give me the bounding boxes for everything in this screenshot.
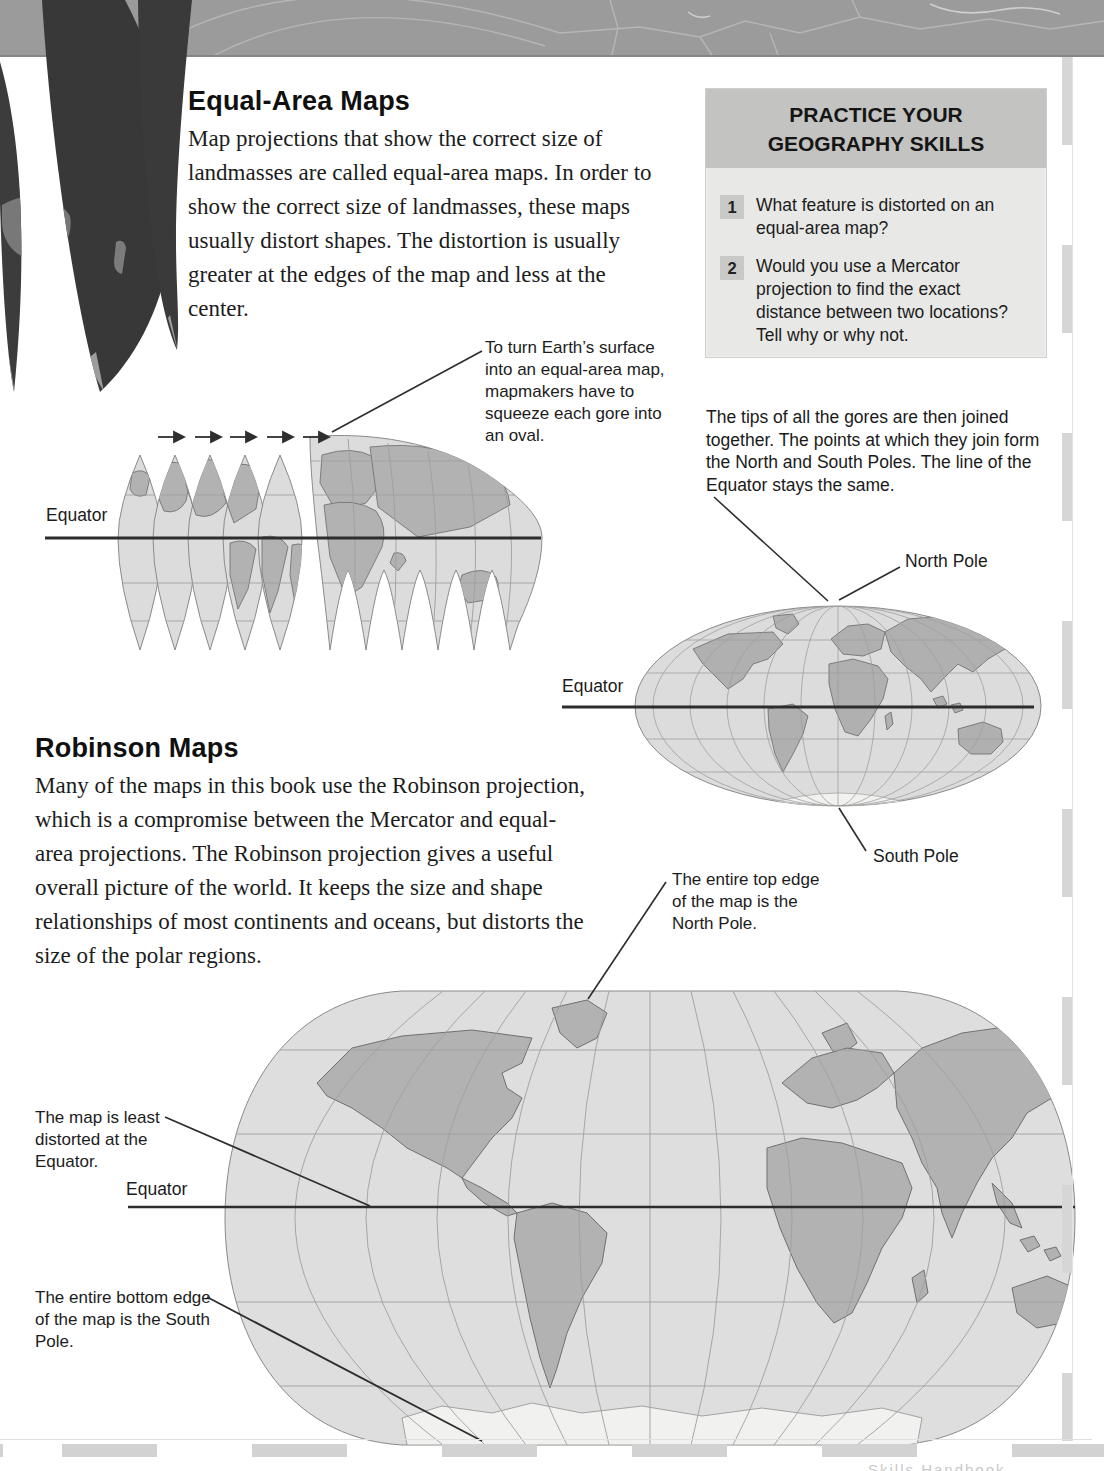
south-pole-leader-line xyxy=(839,808,866,851)
equator-label-oval: Equator xyxy=(562,676,623,697)
practice-box-header: PRACTICE YOUR GEOGRAPHY SKILLS xyxy=(706,89,1046,168)
page-edge-hairline-right xyxy=(1072,57,1073,1441)
equator-label-robinson: Equator xyxy=(126,1179,187,1200)
equal-area-paragraph: Map projections that show the correct si… xyxy=(188,122,660,326)
top-edge-leader-line xyxy=(588,882,666,999)
north-pole-leader-line xyxy=(839,567,900,600)
north-pole-label: North Pole xyxy=(905,551,988,572)
question-text: Would you use a Mercator projection to f… xyxy=(756,255,1028,347)
page-edge-hairline-bottom xyxy=(0,1439,1092,1440)
top-edge-annotation: The entire top edge of the map is the No… xyxy=(672,869,827,935)
practice-title-line1: PRACTICE YOUR xyxy=(706,100,1046,129)
question-number-badge: 1 xyxy=(720,195,744,219)
equator-label-gores: Equator xyxy=(46,505,107,526)
right-arrow-icon xyxy=(267,432,293,442)
right-arrow-icon xyxy=(158,432,184,442)
page-edge-dashes-bottom xyxy=(0,1444,1104,1457)
question-number-badge: 2 xyxy=(720,256,744,280)
squeeze-leader-line xyxy=(332,351,482,432)
right-arrow-icon xyxy=(230,432,256,442)
robinson-paragraph: Many of the maps in this book use the Ro… xyxy=(35,769,591,973)
footer-partial-text: Skills Handbook xyxy=(868,1461,1104,1471)
robinson-heading: Robinson Maps xyxy=(35,733,239,764)
equal-area-oval-map xyxy=(633,604,1043,808)
page-edge-dashes-right xyxy=(1062,57,1072,1441)
least-distorted-annotation: The map is least distorted at the Equato… xyxy=(35,1107,185,1173)
practice-skills-box: PRACTICE YOUR GEOGRAPHY SKILLS 1 What fe… xyxy=(705,88,1047,358)
right-arrow-icon xyxy=(195,432,221,442)
gore-shift-arrows xyxy=(158,432,329,442)
equal-area-heading: Equal-Area Maps xyxy=(188,86,410,117)
practice-question-2: 2 Would you use a Mercator projection to… xyxy=(706,255,1046,347)
robinson-world-map xyxy=(222,988,1078,1448)
practice-title-line2: GEOGRAPHY SKILLS xyxy=(706,129,1046,158)
gore-blades-decoration xyxy=(0,0,200,430)
bottom-edge-annotation: The entire bottom edge of the map is the… xyxy=(35,1287,215,1353)
practice-question-1: 1 What feature is distorted on an equal-… xyxy=(706,194,1046,240)
equal-area-gores-illustration xyxy=(40,425,550,670)
question-text: What feature is distorted on an equal-ar… xyxy=(756,194,1028,240)
south-pole-label: South Pole xyxy=(873,846,959,867)
textbook-page: Equal-Area Maps Map projections that sho… xyxy=(0,0,1104,1471)
joined-leader-line xyxy=(714,497,828,601)
gores-joined-paragraph: The tips of all the gores are then joine… xyxy=(706,406,1064,496)
